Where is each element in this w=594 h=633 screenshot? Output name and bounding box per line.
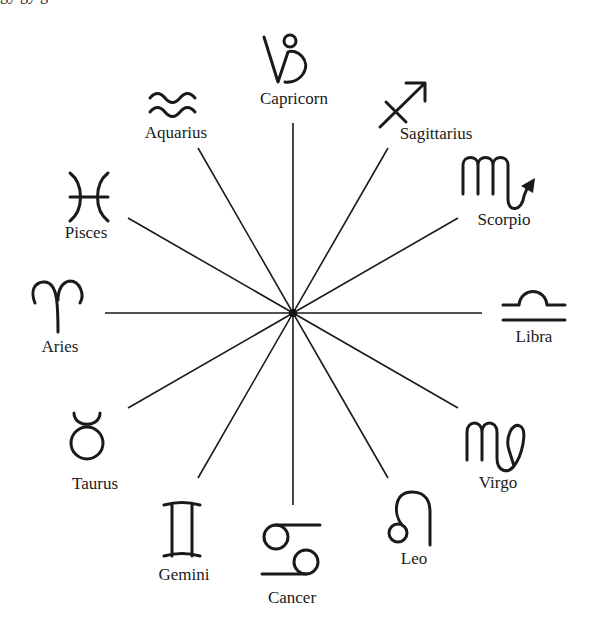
label-virgo: Virgo <box>479 473 517 493</box>
label-pisces: Pisces <box>65 223 108 243</box>
label-gemini: Gemini <box>159 565 210 585</box>
label-sagittarius: Sagittarius <box>400 124 473 144</box>
cancer-icon <box>262 525 320 574</box>
leo-icon <box>389 492 430 545</box>
pisces-icon <box>70 173 108 221</box>
label-taurus: Taurus <box>72 474 118 494</box>
label-leo: Leo <box>401 549 427 569</box>
taurus-icon <box>71 413 103 459</box>
wheel-hub <box>289 309 297 317</box>
aries-icon <box>33 281 82 332</box>
label-libra: Libra <box>516 327 553 347</box>
capricorn-icon <box>264 35 306 82</box>
gemini-icon <box>164 503 200 556</box>
libra-icon <box>503 292 565 321</box>
label-capricorn: Capricorn <box>260 89 328 109</box>
sagittarius-icon <box>380 83 425 127</box>
aquarius-icon <box>150 94 195 117</box>
wheel-spokes <box>105 123 482 505</box>
label-aquarius: Aquarius <box>145 123 207 143</box>
virgo-icon <box>467 423 524 471</box>
label-scorpio: Scorpio <box>478 210 531 230</box>
scorpio-icon <box>463 158 535 209</box>
label-aries: Aries <box>42 337 79 357</box>
label-cancer: Cancer <box>268 588 316 608</box>
